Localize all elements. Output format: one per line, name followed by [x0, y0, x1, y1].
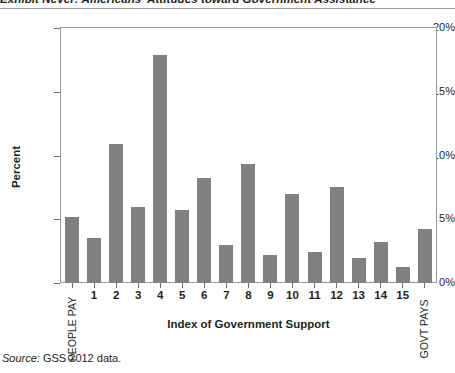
x-tick-label: 12 [330, 289, 343, 301]
x-tick-label: 2 [113, 289, 119, 301]
bar [219, 245, 233, 283]
x-tick-label: 9 [267, 289, 273, 301]
x-label-slot: 15 [392, 289, 414, 301]
bar-series [61, 28, 436, 283]
x-tick-mark [226, 283, 227, 288]
x-label-slot: 8 [237, 289, 259, 301]
bar [65, 217, 79, 283]
title-divider [0, 8, 455, 9]
bar-slot [370, 28, 392, 283]
x-tick-mark [314, 283, 315, 288]
source-value: GSS 2012 data. [40, 352, 121, 364]
x-tick-label: 7 [223, 289, 229, 301]
x-axis-title: Index of Government Support [61, 318, 436, 330]
bar [396, 267, 410, 283]
bar [241, 164, 255, 283]
bar-slot [127, 28, 149, 283]
bar-slot [105, 28, 127, 283]
bar [418, 229, 432, 283]
x-tick-mark [248, 283, 249, 288]
x-tick-label: 6 [201, 289, 207, 301]
x-tick-label: 8 [245, 289, 251, 301]
y-axis-title: Percent [10, 122, 22, 212]
source-label: Source: [2, 352, 40, 364]
x-tick-label: 10 [286, 289, 299, 301]
bar-slot [326, 28, 348, 283]
bar-slot [259, 28, 281, 283]
bar-slot [193, 28, 215, 283]
x-tick-mark [138, 283, 139, 288]
exhibit-title: Exhibit Never: Americans' Attitudes towa… [0, 0, 455, 7]
bar [263, 255, 277, 283]
x-tick-mark [424, 283, 425, 288]
x-tick-mark [116, 283, 117, 288]
x-label-slot: 14 [370, 289, 392, 301]
x-label-slot: 7 [215, 289, 237, 301]
x-tick-mark [402, 283, 403, 288]
bar [109, 144, 123, 283]
bar-slot [61, 28, 83, 283]
x-label-slot: 2 [105, 289, 127, 301]
bar-slot [149, 28, 171, 283]
x-label-slot: 12 [326, 289, 348, 301]
bar-slot [215, 28, 237, 283]
x-tick-label: 14 [374, 289, 387, 301]
bar [197, 178, 211, 283]
x-tick-mark [380, 283, 381, 288]
bar [153, 55, 167, 283]
x-label-slot: 4 [149, 289, 171, 301]
bar [285, 194, 299, 283]
x-label-slot: 6 [193, 289, 215, 301]
x-tick-mark [336, 283, 337, 288]
bar [330, 187, 344, 283]
bar-slot [281, 28, 303, 283]
x-tick-mark [160, 283, 161, 288]
x-label-slot: 5 [171, 289, 193, 301]
bar-slot [414, 28, 436, 283]
bar-slot [237, 28, 259, 283]
x-tick-label: 4 [157, 289, 163, 301]
x-label-slot: 13 [348, 289, 370, 301]
x-tick-mark [292, 283, 293, 288]
bar [374, 242, 388, 283]
y-tick-mark [54, 283, 60, 284]
y-axis: Percent [0, 27, 52, 283]
x-tick-label: 11 [308, 289, 320, 301]
x-tick-label: 5 [179, 289, 185, 301]
x-label-slot: 1 [83, 289, 105, 301]
bar-slot [171, 28, 193, 283]
bar-slot [83, 28, 105, 283]
x-tick-label: 13 [352, 289, 365, 301]
bar-slot [392, 28, 414, 283]
source-note: Source: GSS 2012 data. [2, 352, 121, 364]
x-tick-mark [270, 283, 271, 288]
bar [131, 207, 145, 284]
x-label-slot: 3 [127, 289, 149, 301]
x-tick-mark [358, 283, 359, 288]
x-tick-mark [182, 283, 183, 288]
bar [308, 252, 322, 283]
x-label-slot: 11 [304, 289, 326, 301]
bar-slot [348, 28, 370, 283]
x-label-slot: 10 [281, 289, 303, 301]
x-tick-mark [204, 283, 205, 288]
x-tick-label: 15 [396, 289, 409, 301]
x-tick-mark [94, 283, 95, 288]
bar-slot [304, 28, 326, 283]
bar [352, 258, 366, 284]
bar [175, 210, 189, 283]
x-tick-label: 1 [91, 289, 97, 301]
x-tick-label: 3 [135, 289, 141, 301]
bar [87, 238, 101, 283]
x-label-slot: 9 [259, 289, 281, 301]
x-tick-mark [72, 283, 73, 288]
